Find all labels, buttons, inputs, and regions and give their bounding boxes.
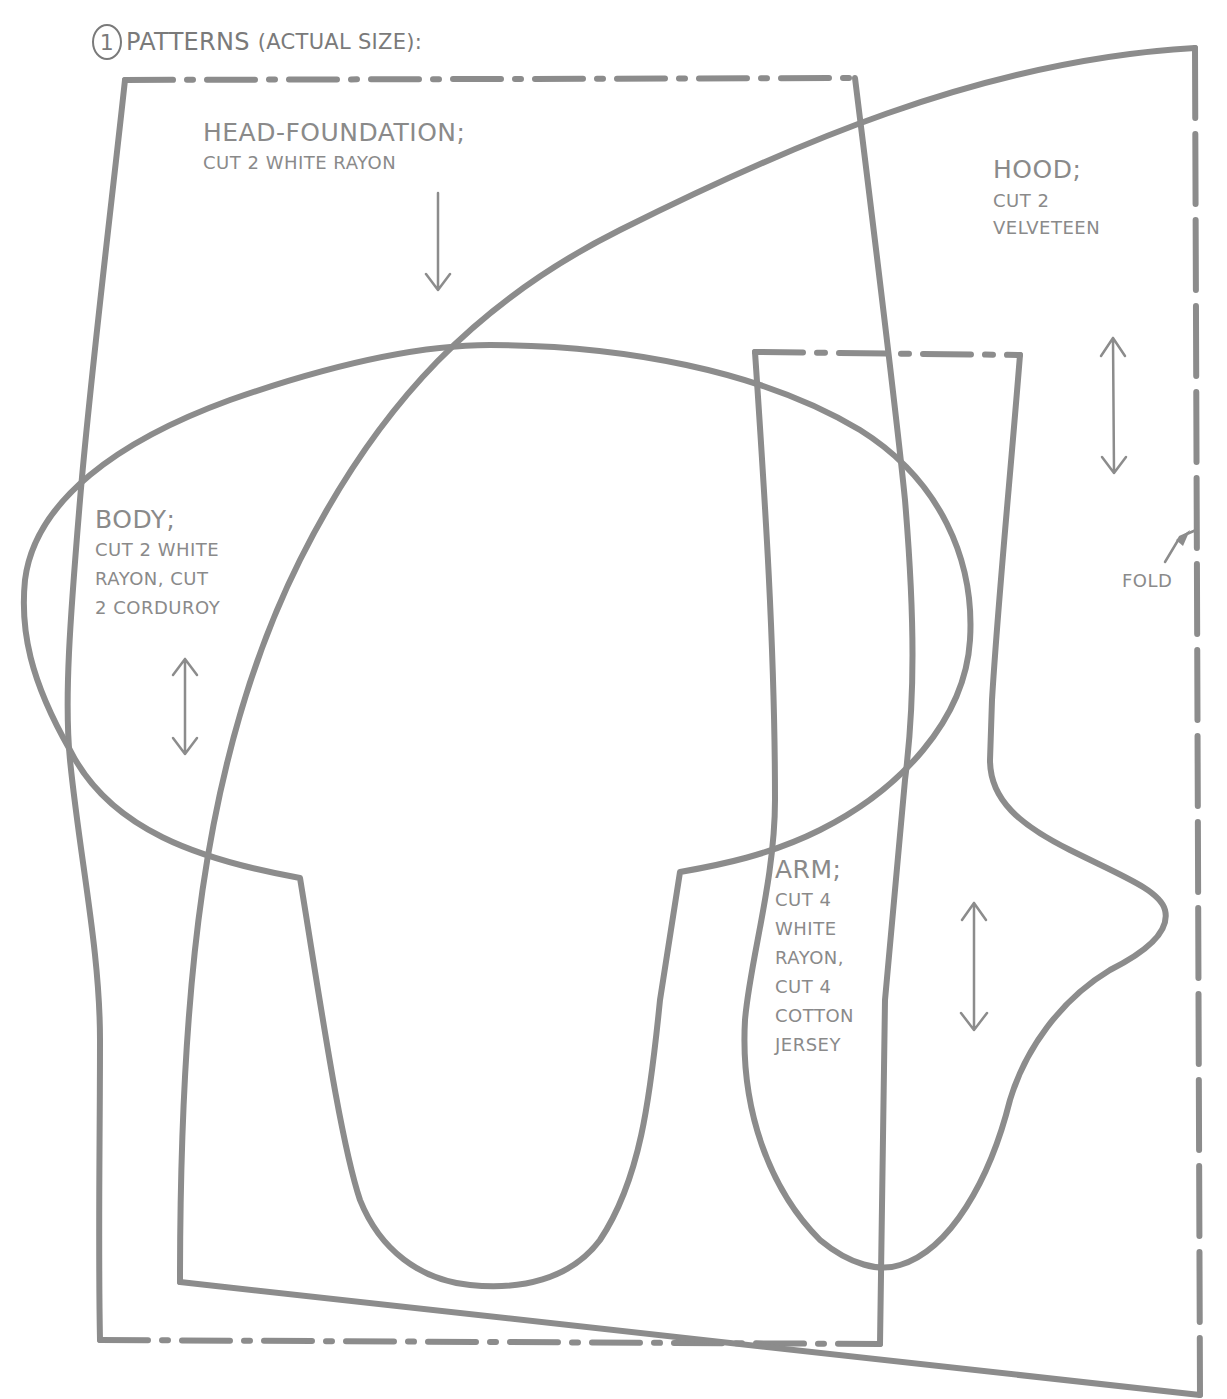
body-label: BODY; CUT 2 WHITE RAYON, CUT 2 CORDUROY [95, 505, 220, 622]
arm-grain-arrow-icon [961, 903, 987, 1030]
piece-name: ARM; [775, 855, 854, 885]
body-outline [24, 345, 971, 1286]
piece-instruction: WHITE [775, 914, 854, 943]
piece-instruction: CUT 4 [775, 972, 854, 1001]
body-grain-arrow-icon [173, 659, 197, 754]
arm-outline [744, 352, 1165, 1268]
piece-instruction: VELVETEEN [993, 216, 1100, 240]
piece-instruction: CUT 2 [993, 185, 1100, 216]
piece-instruction: RAYON, [775, 943, 854, 972]
hood-grain-arrow-icon [1101, 338, 1126, 473]
piece-instruction: CUT 2 WHITE RAYON [203, 148, 465, 177]
head-foundation-label: HEAD-FOUNDATION; CUT 2 WHITE RAYON [203, 118, 465, 177]
piece-instruction: CUT 4 [775, 885, 854, 914]
piece-instruction: 2 CORDUROY [95, 593, 220, 622]
piece-instruction: COTTON [775, 1001, 854, 1030]
piece-name: HOOD; [993, 155, 1100, 185]
head-foundation-outline [68, 78, 913, 1344]
piece-name: BODY; [95, 505, 220, 535]
fold-pointer-icon [1165, 530, 1196, 562]
hood-label: HOOD; CUT 2 VELVETEEN [993, 155, 1100, 240]
fold-label: FOLD [1122, 570, 1172, 591]
piece-instruction: JERSEY [775, 1030, 854, 1059]
piece-instruction: RAYON, CUT [95, 564, 220, 593]
down-arrow-icon [426, 193, 450, 290]
piece-instruction: CUT 2 WHITE [95, 535, 220, 564]
hood-outline [180, 48, 1200, 1395]
piece-name: HEAD-FOUNDATION; [203, 118, 465, 148]
arm-label: ARM; CUT 4 WHITE RAYON, CUT 4 COTTON JER… [775, 855, 854, 1059]
